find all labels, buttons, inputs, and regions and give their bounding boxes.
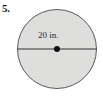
center-point-dot	[54, 46, 60, 52]
circle-diagram	[0, 0, 103, 99]
circle-figure: 5. 20 in.	[0, 0, 103, 99]
diameter-measure-label: 20 in.	[38, 30, 59, 40]
